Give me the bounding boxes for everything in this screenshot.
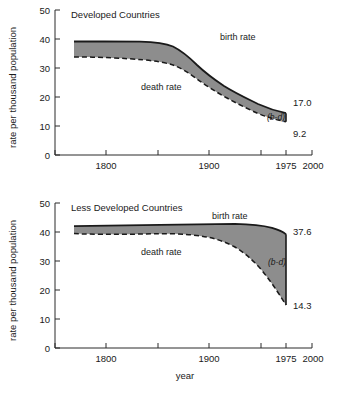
y-tick-label-0-top: 0 [45, 150, 50, 161]
demographic-transition-figure: 50 40 30 20 10 0 1800 1900 1975 2000 Dev… [0, 0, 341, 400]
x-tick-label-2000-top: 2000 [302, 160, 323, 171]
endpoint-value-death-bottom: 14.3 [293, 300, 312, 311]
bd-difference-label-bottom: (b-d) [268, 257, 286, 267]
y-tick-label-30-top: 30 [39, 63, 50, 74]
x-ticks-bottom [55, 343, 312, 348]
endpoint-value-birth-bottom: 37.6 [293, 226, 312, 237]
bd-difference-label-top: (b-d) [267, 112, 285, 122]
x-tick-label-1975-bottom: 1975 [275, 353, 296, 364]
x-tick-label-2000-bottom: 2000 [302, 353, 323, 364]
y-axis-title-top: rate per thousand population [7, 27, 18, 148]
y-ticks-top [55, 10, 60, 155]
x-axis-title: year [176, 370, 194, 381]
panel-less-developed-countries: 50 40 30 20 10 0 1800 1900 1975 2000 Les… [7, 198, 324, 382]
x-tick-label-1800-bottom: 1800 [95, 353, 116, 364]
y-tick-label-50-bottom: 50 [39, 198, 50, 209]
y-tick-label-20-top: 20 [39, 92, 50, 103]
y-tick-label-30-bottom: 30 [39, 256, 50, 267]
x-tick-label-1975-top: 1975 [275, 160, 296, 171]
birth-rate-label-bottom: birth rate [212, 211, 248, 221]
death-rate-label-top: death rate [141, 82, 182, 92]
x-tick-label-1900-bottom: 1900 [198, 353, 219, 364]
panel-title-less-developed: Less Developed Countries [71, 202, 183, 213]
birth-rate-label-top: birth rate [220, 32, 256, 42]
y-tick-label-0-bottom: 0 [45, 343, 50, 354]
y-ticks-bottom [55, 203, 60, 348]
y-tick-label-10-bottom: 10 [39, 314, 50, 325]
endpoint-value-birth-top: 17.0 [293, 97, 312, 108]
panel-developed-countries: 50 40 30 20 10 0 1800 1900 1975 2000 Dev… [7, 5, 324, 172]
panel-title-developed: Developed Countries [71, 9, 160, 20]
y-tick-label-40-bottom: 40 [39, 227, 50, 238]
y-tick-label-10-top: 10 [39, 121, 50, 132]
y-axis-title-bottom: rate per thousand population [7, 220, 18, 341]
figure-container: 50 40 30 20 10 0 1800 1900 1975 2000 Dev… [0, 0, 341, 400]
endpoint-value-death-top: 9.2 [293, 128, 306, 139]
death-rate-label-bottom: death rate [141, 247, 182, 257]
y-tick-label-40-top: 40 [39, 34, 50, 45]
x-tick-label-1900-top: 1900 [198, 160, 219, 171]
y-tick-label-20-bottom: 20 [39, 285, 50, 296]
band-area-bottom [74, 224, 286, 305]
x-tick-label-1800-top: 1800 [95, 160, 116, 171]
y-tick-label-50-top: 50 [39, 5, 50, 16]
x-ticks-top [55, 150, 312, 155]
